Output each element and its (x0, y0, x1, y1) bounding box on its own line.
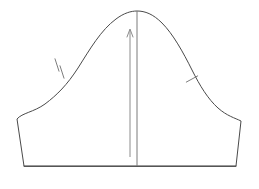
front-single-notch-group (186, 76, 197, 82)
front-notch-tick-1 (186, 76, 197, 82)
sleeve-pattern-drawing (0, 0, 259, 189)
back-notch-tick-2 (60, 66, 64, 78)
sleeve-cap-outline-path (17, 11, 241, 166)
back-notch-tick-1 (55, 59, 59, 71)
back-double-notch-group (55, 59, 64, 78)
pattern-diagram-canvas (0, 0, 259, 189)
